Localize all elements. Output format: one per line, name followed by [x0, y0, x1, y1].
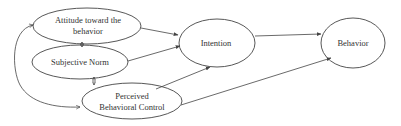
label-behavior-line1: Behavior [337, 38, 368, 49]
label-pbc-line1: Perceived [99, 91, 164, 102]
tpb-diagram: Attitude toward the behavior Subjective … [0, 0, 401, 126]
label-pbc: Perceived Behavioral Control [99, 91, 164, 113]
edge-pbc-intention [156, 67, 210, 89]
label-attitude: Attitude toward the behavior [55, 15, 121, 37]
edge-attitude-intention [141, 28, 178, 35]
edge-intention-behavior [255, 34, 321, 36]
label-behavior: Behavior [337, 38, 368, 49]
label-intention-line1: Intention [201, 38, 232, 49]
label-pbc-line2: Behavioral Control [99, 102, 164, 113]
label-intention: Intention [201, 38, 232, 49]
edge-norm-intention [128, 46, 180, 61]
label-attitude-line1: Attitude toward the [55, 15, 121, 26]
label-attitude-line2: behavior [55, 26, 121, 37]
label-subjective-norm: Subjective Norm [51, 57, 109, 68]
label-subjective-norm-line1: Subjective Norm [51, 57, 109, 68]
